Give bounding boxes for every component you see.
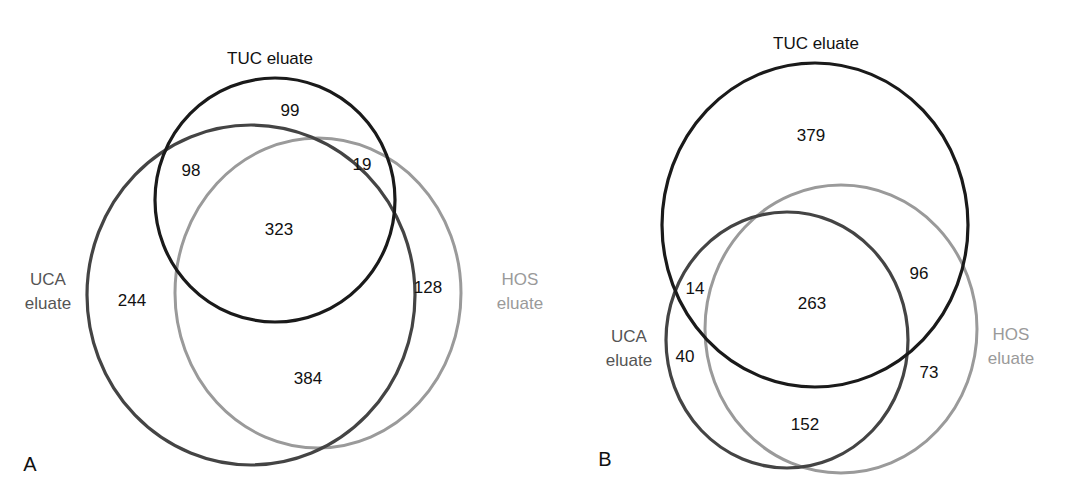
region-tuc-uca-b: 14: [686, 279, 705, 298]
venn-figure: TUC eluate UCA eluate HOS eluate 99 98 1…: [0, 0, 1078, 497]
region-all-three-b: 263: [798, 294, 826, 313]
tuc-circle-b: [662, 63, 968, 387]
venn-panel-b: TUC eluate UCA eluate HOS eluate 379 14 …: [598, 34, 1034, 473]
panel-label-b: B: [598, 448, 611, 470]
hos-label-b-line1: HOS: [993, 325, 1030, 344]
uca-label-b-line1: UCA: [611, 327, 648, 346]
uca-label-a-line1: UCA: [30, 270, 67, 289]
tuc-circle-a: [155, 78, 395, 322]
region-tuc-hos-b: 96: [910, 264, 929, 283]
region-hos-only-a: 128: [414, 278, 442, 297]
region-tuc-hos-a: 19: [353, 155, 372, 174]
region-all-three-a: 323: [265, 220, 293, 239]
region-tuc-only-a: 99: [281, 101, 300, 120]
hos-label-a-line2: eluate: [497, 294, 543, 313]
region-uca-only-a: 244: [118, 291, 146, 310]
venn-panel-a: TUC eluate UCA eluate HOS eluate 99 98 1…: [23, 49, 543, 475]
hos-label-a-line1: HOS: [502, 270, 539, 289]
uca-label-b-line2: eluate: [606, 351, 652, 370]
tuc-label-b: TUC eluate: [773, 34, 859, 53]
region-uca-hos-b: 152: [791, 415, 819, 434]
panel-label-a: A: [23, 453, 37, 475]
region-uca-only-b: 40: [676, 347, 695, 366]
region-tuc-only-b: 379: [797, 126, 825, 145]
region-uca-hos-a: 384: [294, 369, 322, 388]
uca-label-a-line2: eluate: [25, 294, 71, 313]
uca-circle-b: [666, 212, 908, 468]
region-hos-only-b: 73: [920, 363, 939, 382]
hos-circle-b: [705, 185, 977, 473]
hos-label-b-line2: eluate: [988, 349, 1034, 368]
tuc-label-a: TUC eluate: [227, 49, 313, 68]
region-tuc-uca-a: 98: [182, 161, 201, 180]
